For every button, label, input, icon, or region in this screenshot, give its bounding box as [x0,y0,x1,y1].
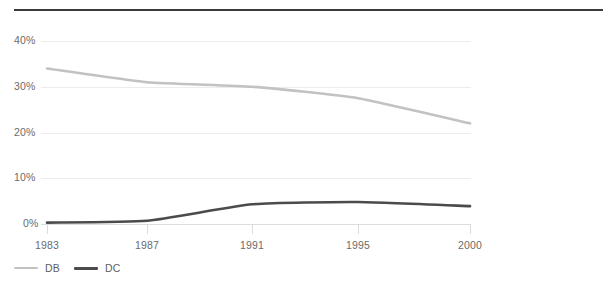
legend-item-db[interactable]: DB [14,262,60,274]
chart-legend: DB DC [14,262,121,274]
legend-item-dc[interactable]: DC [74,262,121,274]
series-canvas [0,0,615,290]
plot-area: 40% 30% 20% 10% 0% 1983 1987 1991 1995 2… [0,0,615,290]
legend-swatch-dc-icon [74,267,98,270]
legend-label-db: DB [45,262,60,274]
line-chart: 40% 30% 20% 10% 0% 1983 1987 1991 1995 2… [0,0,615,290]
series-line-db [47,68,470,123]
legend-swatch-db-icon [14,267,38,269]
legend-label-dc: DC [105,262,121,274]
series-line-dc [47,202,470,223]
